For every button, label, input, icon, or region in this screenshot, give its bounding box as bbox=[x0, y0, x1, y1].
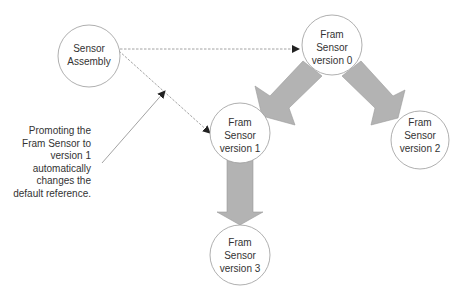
node-label-line: Fram bbox=[228, 237, 251, 248]
block-arrow-v0-to-v1 bbox=[255, 61, 322, 125]
node-label-line: Assembly bbox=[67, 56, 110, 67]
annotation-line: Promoting the bbox=[6, 125, 91, 138]
node-label-line: Fram bbox=[320, 29, 343, 40]
annotation-pointer-arrow bbox=[102, 91, 165, 163]
annotation-line: Fram Sensor to bbox=[6, 138, 91, 151]
block-arrow-v1-to-v3 bbox=[217, 160, 263, 225]
annotation-note: Promoting the Fram Sensor to version 1 a… bbox=[6, 125, 91, 200]
node-label-line: Sensor bbox=[224, 130, 256, 141]
block-arrow-v0-to-v2 bbox=[342, 61, 405, 125]
annotation-line: changes the bbox=[6, 175, 91, 188]
node-label-line: version 0 bbox=[312, 55, 353, 66]
node-fram-v3[interactable]: Fram Sensor version 3 bbox=[210, 225, 270, 285]
node-label-line: Sensor bbox=[73, 43, 105, 54]
node-label-line: version 3 bbox=[220, 263, 261, 274]
node-fram-v1[interactable]: Fram Sensor version 1 bbox=[210, 103, 270, 163]
annotation-line: automatically bbox=[6, 163, 91, 176]
node-label-line: Sensor bbox=[224, 250, 256, 261]
node-label-line: Sensor bbox=[316, 42, 348, 53]
node-label-line: version 2 bbox=[400, 143, 441, 154]
node-fram-v0[interactable]: Fram Sensor version 0 bbox=[302, 15, 362, 75]
annotation-line: default reference. bbox=[6, 188, 91, 201]
node-label-line: Fram bbox=[408, 117, 431, 128]
annotation-line: version 1 bbox=[6, 150, 91, 163]
node-label-line: Fram bbox=[228, 117, 251, 128]
node-label-line: version 1 bbox=[220, 143, 261, 154]
node-sensor-assembly[interactable]: Sensor Assembly bbox=[58, 25, 120, 87]
node-label-line: Sensor bbox=[404, 130, 436, 141]
diagram-canvas: Sensor Assembly Fram Sensor version 0 Fr… bbox=[0, 0, 462, 296]
node-fram-v2[interactable]: Fram Sensor version 2 bbox=[391, 111, 449, 169]
